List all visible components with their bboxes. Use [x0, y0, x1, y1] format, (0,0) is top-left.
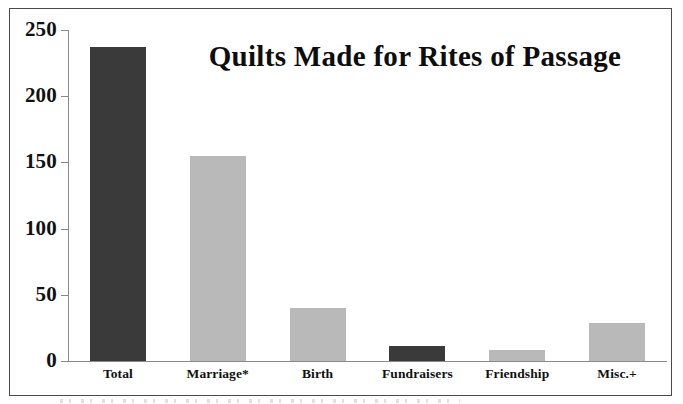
x-axis-label: Birth — [268, 366, 368, 382]
x-axis-label: Marriage* — [168, 366, 268, 382]
y-tick-label: 0 — [9, 350, 57, 371]
y-tick-mark — [61, 162, 69, 163]
y-tick-label: 250 — [9, 19, 57, 40]
y-tick-label: 200 — [9, 85, 57, 106]
bar — [589, 323, 645, 361]
y-tick-label: 50 — [9, 284, 57, 305]
y-tick-label: 150 — [9, 151, 57, 172]
bar — [190, 156, 246, 361]
y-tick-mark — [61, 96, 69, 97]
x-axis-label: Friendship — [467, 366, 567, 382]
y-tick-label: 100 — [9, 218, 57, 239]
plot-area: Quilts Made for Rites of Passage 0501001… — [0, 0, 683, 404]
x-axis-label: Total — [68, 366, 168, 382]
bar — [389, 346, 445, 361]
x-axis-label: Misc.+ — [567, 366, 667, 382]
y-tick-mark — [61, 30, 69, 31]
y-axis-line — [68, 30, 69, 362]
x-axis-label: Fundraisers — [368, 366, 468, 382]
y-tick-mark — [61, 361, 69, 362]
y-tick-mark — [61, 229, 69, 230]
bar — [90, 47, 146, 361]
scan-bleed-artifact — [60, 399, 460, 403]
chart-title: Quilts Made for Rites of Passage — [175, 40, 655, 73]
bar — [290, 308, 346, 361]
bar-chart-figure: Quilts Made for Rites of Passage 0501001… — [0, 0, 683, 404]
x-axis-line — [68, 361, 667, 362]
bar — [489, 350, 545, 361]
y-tick-mark — [61, 295, 69, 296]
